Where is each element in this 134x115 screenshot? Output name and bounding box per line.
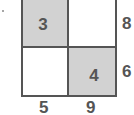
cell-bottom-right: 4 [69, 48, 115, 95]
cell-top-left: 3 [23, 0, 69, 48]
cell-top-right [69, 0, 115, 48]
grid-diagram: 3 4 [21, 0, 117, 97]
row-label-1: 8 [122, 14, 131, 34]
cell-value: 3 [38, 15, 47, 35]
marker-dot [2, 10, 4, 12]
column-label-1: 5 [39, 98, 48, 115]
cell-bottom-left [23, 48, 69, 95]
column-label-2: 9 [86, 98, 95, 115]
cell-value: 4 [89, 66, 98, 86]
row-label-2: 6 [122, 62, 131, 82]
